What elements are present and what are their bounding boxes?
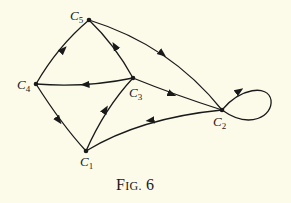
figure-caption: FIG. 6 [116,176,154,194]
edge-c3-c5 [89,20,133,78]
node-c2 [220,108,225,113]
label-c2: C2 [213,114,226,131]
edge-c4-c1 [36,84,86,151]
label-c3: C3 [129,85,143,102]
label-c4: C4 [17,77,31,94]
node-c1 [84,149,89,154]
edge-c2-self-loop [222,90,271,120]
edge-c2-c1 [86,110,222,151]
edge-c4-c5 [36,20,89,84]
arrow-c4-c5 [62,50,64,52]
label-c5: C5 [70,8,84,25]
edge-c1-c3 [86,78,133,151]
arrow-c2-self-loop [237,91,240,93]
arrow-c1-c3 [104,110,106,113]
edge-c3-c4 [36,78,133,85]
arrow-c3-c5 [115,46,116,48]
node-c4 [34,82,39,87]
edge-c5-c2 [89,20,222,110]
arrow-c4-c1 [57,118,59,121]
label-c1: C1 [80,154,93,171]
directed-graph: C5 C4 C3 C2 C1 [0,0,291,203]
node-c5 [87,18,92,23]
node-c3 [131,76,136,81]
